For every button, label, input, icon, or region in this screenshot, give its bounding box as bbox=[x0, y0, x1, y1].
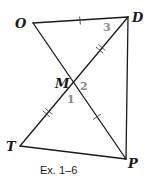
geometry-figure: O D M T P 3 2 1 Ex. 1–6 bbox=[0, 0, 148, 180]
segment-TD bbox=[20, 17, 128, 146]
figure-caption: Ex. 1–6 bbox=[40, 164, 77, 176]
point-label-O: O bbox=[15, 16, 27, 31]
segment-TP bbox=[20, 146, 126, 159]
tick-MP bbox=[93, 114, 101, 120]
segment-DP bbox=[126, 17, 128, 159]
angle-label-1: 1 bbox=[67, 93, 75, 106]
point-label-M: M bbox=[54, 76, 70, 91]
point-label-P: P bbox=[127, 156, 139, 171]
point-label-T: T bbox=[6, 139, 17, 154]
tick-OD bbox=[80, 17, 81, 25]
angle-label-3: 3 bbox=[103, 21, 111, 34]
point-label-D: D bbox=[131, 10, 144, 25]
angle-label-2: 2 bbox=[80, 80, 88, 93]
